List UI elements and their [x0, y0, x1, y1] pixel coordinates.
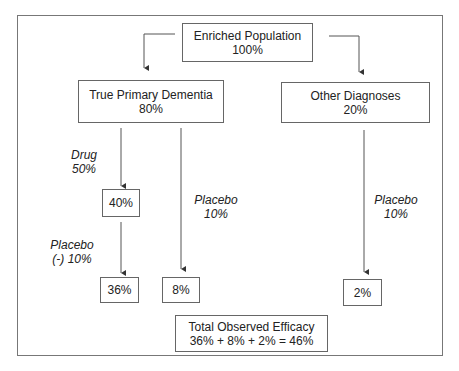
placebo-left-label: Placebo 10%: [193, 193, 239, 221]
placebo-right-label: Placebo 10%: [372, 193, 420, 221]
right-branch-value: 20%: [343, 103, 367, 117]
left-branch-title: True Primary Dementia: [89, 88, 213, 102]
placebo-minus-label: Placebo (-) 10%: [46, 238, 98, 266]
total-efficacy-node: Total Observed Efficacy 36% + 8% + 2% = …: [175, 315, 328, 352]
other-diagnoses-node: Other Diagnoses 20%: [281, 82, 430, 123]
drug-result-node: 40%: [102, 189, 140, 217]
drug-label: Drug 50%: [66, 148, 102, 176]
placebo-right-result-node: 2%: [343, 279, 382, 306]
total-equation: 36% + 8% + 2% = 46%: [190, 334, 314, 348]
right-branch-title: Other Diagnoses: [310, 89, 400, 103]
left-branch-value: 80%: [139, 102, 163, 116]
total-title: Total Observed Efficacy: [189, 320, 315, 334]
placebo-left-result-node: 8%: [162, 277, 200, 303]
root-title: Enriched Population: [194, 29, 301, 43]
root-node: Enriched Population 100%: [182, 23, 313, 62]
true-primary-dementia-node: True Primary Dementia 80%: [78, 80, 224, 123]
placebo-minus-result-node: 36%: [100, 277, 139, 303]
root-value: 100%: [232, 43, 263, 57]
